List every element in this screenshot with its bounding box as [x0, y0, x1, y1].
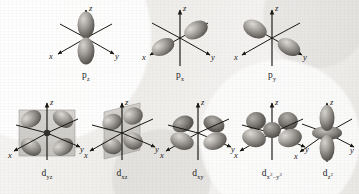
- label-py: py: [252, 70, 292, 82]
- dx2y2-lobe-center: [263, 122, 281, 138]
- px-axis-label-y: y: [210, 52, 215, 62]
- orbital-pz: z x y: [48, 3, 119, 65]
- label-dz2: dz2: [308, 168, 348, 180]
- py-axes: [242, 10, 302, 66]
- label-py-sub: y: [273, 76, 276, 82]
- dz2-lobe-upper: [320, 105, 335, 131]
- label-pz: pz: [66, 70, 106, 82]
- orbital-dxz: z x y: [83, 97, 159, 160]
- px-lobe-far: [181, 17, 211, 44]
- py-axis-label-x: x: [233, 52, 238, 62]
- dxz-axis-label-x: x: [83, 150, 88, 160]
- label-pz-sub: z: [87, 76, 90, 82]
- dx2y2-axis-label-z: z: [274, 97, 279, 107]
- dz2-axis-label-x: x: [293, 151, 298, 161]
- label-px: px: [160, 70, 200, 82]
- py-lobe-near: [275, 34, 304, 59]
- label-dyz: dyz: [27, 168, 67, 180]
- dz2-lobe-lower: [320, 135, 335, 161]
- label-dx2y2-sub: x2−y2: [267, 174, 282, 180]
- px-axis-label-x: x: [141, 52, 146, 62]
- label-dyz-sub: yz: [46, 174, 52, 180]
- label-dxy-sub: xy: [197, 174, 203, 180]
- dxy-axis-label-x: x: [159, 150, 164, 160]
- pz-axis-label-x: x: [48, 51, 53, 61]
- dyz-axis-label-x: x: [7, 150, 12, 160]
- dxz-axes: [90, 103, 155, 160]
- dxy-axes: [166, 103, 231, 160]
- label-dx2y2: dx2−y2: [246, 168, 298, 180]
- dxy-axis-label-z: z: [200, 97, 205, 107]
- dxz-axis-label-z: z: [124, 97, 129, 107]
- py-axis-label-z: z: [274, 3, 279, 13]
- orbital-dxy: z x y: [159, 97, 235, 160]
- px-axes: [150, 10, 210, 66]
- orbital-dz2: z x y: [293, 97, 354, 162]
- label-dxz: dxz: [102, 168, 142, 180]
- pz-lobe-lower: [78, 38, 95, 65]
- dxz-axis-label-y: y: [154, 144, 159, 154]
- dxy-lobe-front-left: [168, 129, 196, 153]
- label-dxz-sub: xz: [121, 174, 127, 180]
- pz-axis-label-y: y: [114, 51, 119, 61]
- py-lobe-far: [240, 16, 270, 43]
- dxy-lobe-back-left: [170, 112, 197, 136]
- dxy-lobe-back-right: [201, 112, 228, 136]
- pz-axis-label-z: z: [88, 3, 93, 13]
- py-axis-label-y: y: [302, 52, 307, 62]
- orbital-py: z x y: [233, 3, 307, 66]
- px-axis-label-z: z: [182, 3, 187, 13]
- orbital-px: z x y: [141, 3, 215, 66]
- label-px-sub: x: [181, 76, 184, 82]
- dyz-axis-label-z: z: [49, 97, 54, 107]
- dx2y2-axis-label-x: x: [233, 150, 238, 160]
- px-lobe-near: [149, 34, 178, 59]
- pz-lobe-upper: [78, 12, 95, 39]
- orbital-dyz: z x y: [7, 97, 84, 160]
- dz2-axis-label-z: z: [329, 97, 334, 107]
- dz2-axis-label-y: y: [349, 145, 354, 155]
- dxy-lobe-front-right: [201, 129, 229, 153]
- orbital-diagram-canvas: z x y z x y: [0, 0, 359, 194]
- label-dxy: dxy: [178, 168, 218, 180]
- label-dz2-sub: z2: [328, 174, 334, 180]
- orbital-figure: z x y z x y: [0, 0, 359, 194]
